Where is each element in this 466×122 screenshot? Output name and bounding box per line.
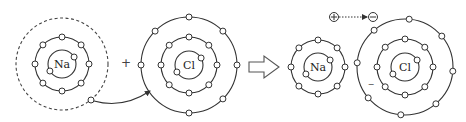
cl-ion-electron: [354, 60, 360, 66]
ionic-bond-diagram: Na + Cl Na Cl −: [0, 0, 466, 122]
cl-ion-electron: [406, 16, 412, 22]
cl-atom-electron: [152, 28, 158, 34]
cl-ion-electron: [402, 36, 408, 42]
na-ion-electron: [315, 37, 321, 43]
cl-ion-electron: [382, 44, 388, 50]
cl-ion-electron: [414, 57, 420, 63]
cl-atom-electron: [206, 82, 212, 88]
na-ion-electron: [334, 83, 340, 89]
cl-atom-electron: [166, 82, 172, 88]
cl-ion-electron: [450, 68, 456, 74]
na-ion-label: Na: [310, 61, 327, 74]
cl-atom-electron: [214, 62, 220, 68]
cl-atom-electron: [166, 42, 172, 48]
cl-atom-electron: [186, 90, 192, 96]
cl-atom-electron: [186, 34, 192, 40]
na-ion-electron: [288, 64, 294, 70]
cl-ion-electron: [422, 84, 428, 90]
na-ion-electron: [315, 91, 321, 97]
cl-ion-electron: [430, 64, 436, 70]
cl-atom-electron: [220, 28, 226, 34]
cl-atom-electron: [234, 62, 240, 68]
plus-operator: +: [121, 56, 131, 70]
cl-atom-electron: [186, 110, 192, 116]
na-atom-label: Na: [54, 58, 71, 71]
na-atom-electron: [32, 61, 38, 67]
cl-ion-electron: [371, 27, 377, 33]
cl-atom-electron: [138, 62, 144, 68]
na-atom-valence-electron: [88, 97, 94, 103]
reaction-arrow-icon: [249, 56, 279, 78]
sodium-ion: Na: [288, 37, 348, 97]
na-atom-electron: [86, 61, 92, 67]
na-ion-electron: [296, 45, 302, 51]
na-atom-electron: [40, 42, 46, 48]
na-ion-electron: [303, 71, 309, 77]
cl-atom-electron: [198, 55, 204, 61]
na-ion-electron: [296, 83, 302, 89]
na-ion-electron: [327, 57, 333, 63]
na-ion-electron: [342, 64, 348, 70]
chlorine-atom: Cl: [138, 14, 240, 116]
cl-ion-electron: [422, 44, 428, 50]
cl-ion-electron: [433, 101, 439, 107]
na-ion-electron: [334, 45, 340, 51]
cl-ion-electron: [398, 112, 404, 118]
cl-ion-electron: [365, 95, 371, 101]
cl-atom-electron: [186, 14, 192, 20]
cl-ion-label: Cl: [399, 61, 411, 74]
chloride-ion: Cl: [354, 16, 456, 118]
cl-atom-electron: [206, 42, 212, 48]
na-atom-electron: [47, 68, 53, 74]
na-atom-electron: [40, 80, 46, 86]
cl-ion-electron: [382, 84, 388, 90]
na-atom-electron: [59, 34, 65, 40]
electron-transfer-arrow: [94, 91, 150, 103]
cl-atom-electron: [174, 69, 180, 75]
charge-transfer-legend: [330, 13, 378, 22]
cl-atom-electron: [220, 96, 226, 102]
cl-ion-electron: [439, 33, 445, 39]
cl-atom-electron: [158, 62, 164, 68]
negative-charge-mark: −: [368, 80, 375, 89]
cl-ion-electron: [402, 92, 408, 98]
cl-atom-label: Cl: [183, 59, 195, 72]
cl-ion-electron: [390, 71, 396, 77]
sodium-atom: Na: [16, 18, 108, 110]
na-atom-electron: [71, 54, 77, 60]
na-atom-electron: [78, 80, 84, 86]
na-atom-electron: [59, 88, 65, 94]
na-atom-electron: [78, 42, 84, 48]
cl-ion-electron: [374, 64, 380, 70]
